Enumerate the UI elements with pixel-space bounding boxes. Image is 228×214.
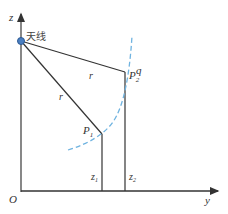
coordinate-diagram: z y O r r q P1 P2 z1 z2 天线 [0,0,228,214]
z2-label: z2 [128,171,136,183]
antenna-icon [18,38,25,45]
antenna-label: 天线 [26,30,46,42]
origin-label: O [9,193,17,205]
point-p1-label: P1 [82,124,93,139]
ray-label-r-upper: r [89,70,93,81]
z1-label: z1 [90,171,98,183]
z-axis-label: z [8,11,14,23]
equal-distance-arc-q [68,36,132,150]
ray-to-p1 [21,41,102,134]
y-axis-label: y [204,194,210,206]
arc-label-q: q [136,64,142,76]
ray-to-p2 [21,41,125,72]
ray-label-r-lower: r [59,91,63,102]
